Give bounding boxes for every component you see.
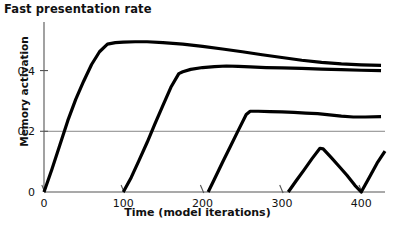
x-tick-label-400: 400	[351, 197, 372, 210]
x-tick-label-300: 300	[271, 197, 292, 210]
series-item-4	[288, 148, 385, 192]
plot-area: 010020030040000.20.4	[0, 0, 395, 225]
x-tick-label-0: 0	[41, 197, 48, 210]
series-item-2	[123, 66, 381, 192]
data-series-group	[44, 42, 385, 192]
y-tick-label-0: 0	[28, 186, 35, 199]
x-tick-label-100: 100	[113, 197, 134, 210]
chart-figure: Fast presentation rate Memory activation…	[0, 0, 395, 225]
y-tick-label-0.2: 0.2	[18, 125, 36, 138]
series-item-3	[208, 111, 381, 192]
series-item-1	[44, 42, 381, 192]
x-tick-label-200: 200	[192, 197, 213, 210]
tick-labels-group: 010020030040000.20.4	[18, 65, 372, 210]
y-tick-label-0.4: 0.4	[18, 65, 36, 78]
